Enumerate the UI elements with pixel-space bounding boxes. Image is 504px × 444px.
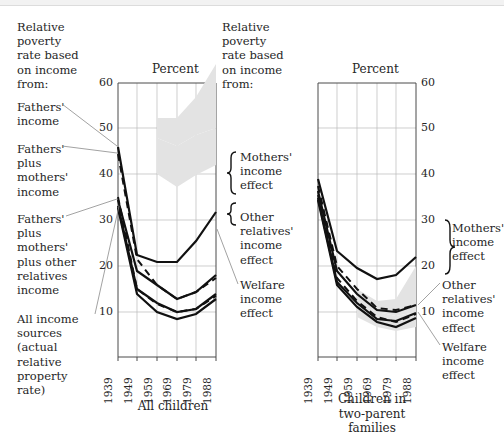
xtick-right-1939: 1939: [302, 377, 314, 404]
xtick-right-1979: 1979: [381, 377, 393, 404]
brace-other-relatives-mid: [227, 203, 236, 225]
figure-root: Relative poverty rate based on income fr…: [0, 0, 504, 444]
xticks-right: [318, 357, 416, 361]
ytick-right-30: 30: [421, 213, 435, 226]
line-fathers-mothers-relatives-left: [118, 200, 216, 299]
xtick-left-1988: 1988: [201, 377, 213, 404]
plot-all-children: [118, 64, 216, 361]
ytick-right-50: 50: [421, 121, 435, 134]
ytick-left-20: 20: [99, 259, 113, 272]
ytick-right-40: 40: [421, 167, 435, 180]
xtick-right-1949: 1949: [322, 377, 334, 404]
xtick-left-1939: 1939: [102, 377, 114, 404]
ytick-left-40: 40: [99, 167, 113, 180]
brace-mothers-right: [445, 220, 455, 274]
xtick-left-1979: 1979: [181, 377, 193, 404]
brace-mothers-mid: [227, 152, 236, 194]
leader-lines-left: [62, 104, 119, 314]
ytick-left-50: 50: [99, 121, 113, 134]
ytick-right-10: 10: [421, 305, 435, 318]
ytick-left-10: 10: [99, 305, 113, 318]
xtick-right-1969: 1969: [361, 377, 373, 404]
leader-lines-mid: [217, 229, 238, 284]
ytick-right-60: 60: [421, 76, 435, 89]
ytick-left-30: 30: [99, 213, 113, 226]
xtick-left-1959: 1959: [142, 377, 154, 404]
ytick-left-60: 60: [99, 76, 113, 89]
xtick-left-1949: 1949: [122, 377, 134, 404]
xtick-right-1959: 1959: [342, 377, 354, 404]
ytick-right-20: 20: [421, 259, 435, 272]
plot-two-parent: [318, 83, 416, 361]
xticks-left: [118, 357, 216, 361]
xtick-right-1988: 1988: [401, 377, 413, 404]
xtick-left-1969: 1969: [161, 377, 173, 404]
